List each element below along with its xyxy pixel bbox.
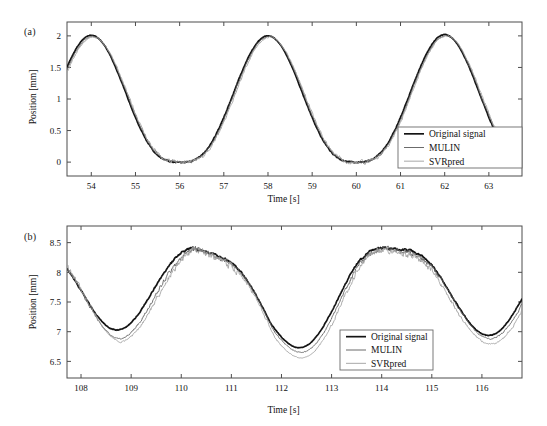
x-tick-label: 111: [225, 383, 238, 393]
x-tick-label: 109: [124, 383, 138, 393]
legend-label: MULIN: [371, 345, 402, 355]
y-tick-label: 0: [57, 157, 62, 167]
x-tick-label: 114: [375, 383, 389, 393]
panel-a: (a) Position [mm] Time [s] 5455565758596…: [0, 0, 547, 213]
legend: Original signalMULINSVRpred: [340, 330, 433, 370]
x-tick-label: 57: [219, 181, 229, 191]
x-tick-label: 59: [308, 181, 318, 191]
x-tick-label: 63: [484, 181, 494, 191]
x-tick-label: 108: [74, 383, 88, 393]
x-tick-label: 116: [475, 383, 489, 393]
y-tick-label: 1.5: [50, 63, 62, 73]
y-tick-label: 7: [57, 327, 62, 337]
legend-label: SVRpred: [371, 359, 407, 369]
legend-label: MULIN: [429, 143, 460, 153]
legend: Original signalMULINSVRpred: [398, 127, 522, 168]
x-tick-label: 62: [440, 181, 449, 191]
figure-canvas: (a) Position [mm] Time [s] 5455565758596…: [0, 0, 547, 426]
y-tick-label: 7.5: [50, 297, 62, 307]
x-tick-label: 54: [87, 181, 97, 191]
x-tick-label: 61: [396, 181, 405, 191]
x-tick-label: 56: [175, 181, 185, 191]
series-line-mulin: [67, 246, 522, 353]
y-tick-label: 1: [57, 94, 62, 104]
x-tick-label: 115: [425, 383, 439, 393]
y-tick-label: 8: [57, 268, 62, 278]
legend-label: Original signal: [429, 129, 486, 139]
x-tick-label: 58: [263, 181, 273, 191]
x-tick-label: 55: [131, 181, 141, 191]
y-tick-label: 0.5: [50, 126, 62, 136]
panel-b-plot: 1081091101111121131141151166.577.588.5Or…: [0, 213, 547, 426]
series-line-svrpred: [67, 247, 522, 358]
y-tick-label: 8.5: [50, 238, 62, 248]
x-tick-label: 113: [325, 383, 339, 393]
panel-a-plot: 5455565758596061626300.511.52Original si…: [0, 0, 547, 213]
legend-label: Original signal: [371, 332, 428, 342]
panel-b: (b) Position [mm] Time [s] 1081091101111…: [0, 213, 547, 426]
x-tick-label: 112: [275, 383, 288, 393]
x-tick-label: 110: [175, 383, 189, 393]
y-tick-label: 2: [57, 31, 62, 41]
legend-label: SVRpred: [429, 157, 465, 167]
y-tick-label: 6.5: [50, 357, 62, 367]
x-tick-label: 60: [352, 181, 362, 191]
